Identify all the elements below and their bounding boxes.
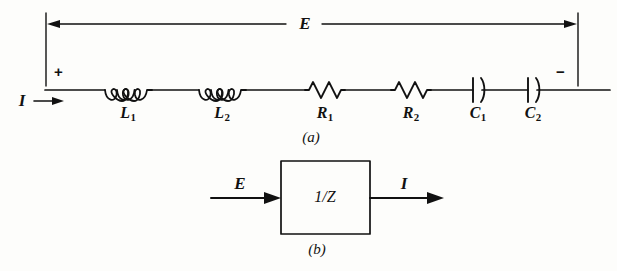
component-label-l2-base: L [214,104,224,121]
component-label-r1-subscript: 1 [327,111,333,123]
component-label-c2-subscript: 2 [535,111,541,123]
component-label-c1: C1 [470,105,487,123]
caption-b: (b) [308,242,326,257]
component-label-c2-base: C [525,104,536,121]
resistor-r2-symbol [391,82,431,98]
voltage-label-e: E [299,15,310,32]
block-output-label-i: I [401,175,408,192]
component-label-c1-base: C [470,104,481,121]
component-label-r2-base: R [403,104,414,121]
component-label-c2: C2 [525,105,542,123]
component-label-r2-subscript: 2 [413,111,419,123]
block-transfer-function-label: 1/Z [314,189,335,205]
current-arrow-head [52,97,64,105]
polarity-plus-sign: + [54,64,63,79]
figure-container: E + − I L1 L2 R1 R2 C1 C2 (a) E I 1/Z (b… [0,0,617,271]
component-label-c1-subscript: 1 [480,111,486,123]
component-label-r1: R1 [317,105,334,123]
inductor-l1-symbol [105,89,152,101]
dimension-arrowhead-right [564,20,577,28]
inductor-l2-symbol [199,89,246,101]
component-label-l1-base: L [120,104,130,121]
component-label-l1-subscript: 1 [130,111,136,123]
polarity-minus-sign: − [556,64,565,79]
component-label-l1: L1 [120,105,136,123]
block-output-arrow-head [427,192,444,204]
component-label-l2-subscript: 2 [224,111,230,123]
caption-a: (a) [302,130,320,145]
component-label-r1-base: R [317,104,328,121]
block-input-label-e: E [234,175,245,192]
dimension-arrowhead-left [47,20,60,28]
current-label-i: I [19,92,26,109]
component-label-r2: R2 [403,105,420,123]
resistor-r1-symbol [305,82,345,98]
component-label-l2: L2 [214,105,230,123]
block-input-arrow-head [264,192,281,204]
